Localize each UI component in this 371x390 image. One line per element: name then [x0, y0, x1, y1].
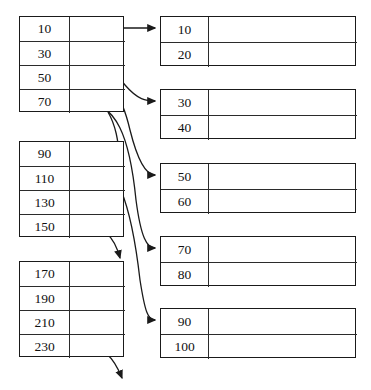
index-entry: 110 — [20, 166, 125, 190]
data-record-key: 20 — [161, 43, 208, 67]
data-record-key: 100 — [161, 335, 208, 359]
index-key: 210 — [20, 311, 69, 334]
index-pointer-cell — [69, 167, 125, 190]
index-pointer-cell — [69, 262, 125, 286]
data-block-1: 1020 — [160, 16, 356, 66]
data-record-body — [208, 43, 357, 67]
data-record-body — [208, 116, 357, 140]
data-record-row: 90 — [161, 309, 357, 334]
index-pointer-cell — [69, 311, 125, 334]
data-record-row: 30 — [161, 90, 357, 115]
data-record-body — [208, 263, 357, 287]
data-record-row: 50 — [161, 164, 357, 189]
data-record-body — [208, 309, 357, 334]
data-record-body — [208, 17, 357, 42]
index-key: 150 — [20, 215, 69, 238]
index-pointer-cell — [69, 42, 125, 65]
data-record-row: 100 — [161, 334, 357, 359]
index-entry: 50 — [20, 65, 125, 89]
data-record-key: 80 — [161, 263, 208, 287]
index-pointer-cell — [69, 335, 125, 358]
index-entry: 190 — [20, 286, 125, 310]
index-key: 10 — [20, 17, 69, 41]
index-key: 190 — [20, 287, 69, 310]
index-key: 30 — [20, 42, 69, 65]
index-pointer-cell — [69, 287, 125, 310]
index-pointer-cell — [69, 17, 125, 41]
data-record-row: 40 — [161, 115, 357, 140]
index-pointer-cell — [69, 90, 125, 113]
index-entry: 70 — [20, 89, 125, 113]
index-key: 70 — [20, 90, 69, 113]
data-record-row: 20 — [161, 42, 357, 67]
data-record-body — [208, 335, 357, 359]
data-record-row: 70 — [161, 237, 357, 262]
index-pointer-cell — [69, 142, 125, 166]
index-key: 170 — [20, 262, 69, 286]
data-record-key: 40 — [161, 116, 208, 140]
data-record-row: 60 — [161, 189, 357, 214]
index-entry: 130 — [20, 190, 125, 214]
data-record-body — [208, 190, 357, 214]
index-block-1: 10305070 — [19, 16, 124, 112]
index-pointer-cell — [69, 66, 125, 89]
data-record-key: 60 — [161, 190, 208, 214]
index-entry: 30 — [20, 41, 125, 65]
index-entry: 150 — [20, 214, 125, 238]
data-record-body — [208, 237, 357, 262]
data-record-key: 30 — [161, 90, 208, 115]
index-key: 50 — [20, 66, 69, 89]
index-key: 110 — [20, 167, 69, 190]
data-record-key: 90 — [161, 309, 208, 334]
index-diagram: 1030507090110130150170190210230 10203040… — [0, 0, 371, 390]
data-record-key: 10 — [161, 17, 208, 42]
data-block-3: 5060 — [160, 163, 356, 213]
data-record-key: 50 — [161, 164, 208, 189]
index-entry: 90 — [20, 142, 125, 166]
data-record-body — [208, 164, 357, 189]
data-block-5: 90100 — [160, 308, 356, 358]
index-entry: 170 — [20, 262, 125, 286]
data-block-2: 3040 — [160, 89, 356, 139]
index-block-3: 170190210230 — [19, 261, 124, 357]
index-key: 90 — [20, 142, 69, 166]
index-block-2: 90110130150 — [19, 141, 124, 237]
data-record-key: 70 — [161, 237, 208, 262]
index-entry: 10 — [20, 17, 125, 41]
index-key: 230 — [20, 335, 69, 358]
data-block-4: 7080 — [160, 236, 356, 286]
index-key: 130 — [20, 191, 69, 214]
data-record-row: 10 — [161, 17, 357, 42]
index-entry: 210 — [20, 310, 125, 334]
data-record-row: 80 — [161, 262, 357, 287]
index-pointer-cell — [69, 191, 125, 214]
data-record-body — [208, 90, 357, 115]
index-entry: 230 — [20, 334, 125, 358]
index-pointer-cell — [69, 215, 125, 238]
